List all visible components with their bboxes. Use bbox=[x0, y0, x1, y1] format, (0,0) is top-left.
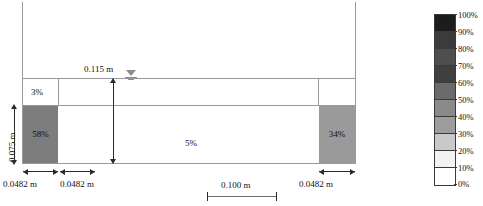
scale-bar-label: 0.100 m bbox=[221, 181, 251, 190]
figure-canvas: 58% 34% 3% 5% 0.115 m 0.075 m 0.0482 m 0… bbox=[0, 0, 483, 206]
scale-bar-tick-left bbox=[207, 192, 208, 201]
colorbar-band bbox=[435, 15, 455, 32]
water-depth-arrow-top bbox=[110, 78, 116, 83]
right-block-inner-edge-line bbox=[318, 78, 319, 106]
center-zone-label: 5% bbox=[185, 139, 197, 148]
water-level-triangle-icon bbox=[126, 70, 138, 81]
colorbar-band bbox=[435, 66, 455, 83]
colorbar-tick-mark bbox=[454, 65, 457, 66]
colorbar-tick-label-10: 10% bbox=[458, 164, 474, 173]
colorbar-band bbox=[435, 83, 455, 100]
colorbar-tick-mark bbox=[454, 48, 457, 49]
colorbar-tick-label-50: 50% bbox=[458, 96, 474, 105]
left-block-inner-edge-line bbox=[58, 78, 59, 106]
left-gap-width-arrow-left bbox=[60, 169, 65, 175]
colorbar-tick-mark bbox=[454, 14, 457, 15]
colorbar-band bbox=[435, 32, 455, 49]
colorbar-band bbox=[435, 49, 455, 66]
block-height-arrow-top bbox=[11, 104, 17, 109]
colorbar-band bbox=[435, 168, 455, 185]
colorbar-band bbox=[435, 100, 455, 117]
colorbar-band bbox=[435, 151, 455, 168]
block-height-label: 0.075 m bbox=[8, 132, 17, 162]
colorbar-tick-mark bbox=[454, 150, 457, 151]
colorbar bbox=[434, 14, 456, 186]
water-depth-label: 0.115 m bbox=[84, 65, 113, 74]
colorbar-tick-mark bbox=[454, 31, 457, 32]
water-surface-line bbox=[22, 78, 356, 79]
water-depth-dim-line bbox=[113, 79, 114, 163]
right-block-width-label: 0.0482 m bbox=[299, 180, 333, 189]
colorbar-tick-mark bbox=[454, 116, 457, 117]
right-wall-line bbox=[355, 2, 356, 163]
block-top-level-line bbox=[22, 105, 356, 106]
left-block: 58% bbox=[23, 106, 58, 163]
block-height-arrow-bottom bbox=[11, 160, 17, 165]
right-block-label: 34% bbox=[329, 130, 346, 139]
left-block-width-arrow-left bbox=[23, 169, 28, 175]
colorbar-band bbox=[435, 134, 455, 151]
colorbar-tick-label-80: 80% bbox=[458, 45, 474, 54]
colorbar-tick-label-100: 100% bbox=[458, 11, 478, 20]
colorbar-tick-mark bbox=[454, 184, 457, 185]
colorbar-tick-label-40: 40% bbox=[458, 113, 474, 122]
upper-left-zone-label: 3% bbox=[31, 88, 43, 97]
channel-bed-line bbox=[22, 163, 356, 164]
colorbar-tick-label-0: 0% bbox=[458, 180, 469, 189]
colorbar-tick-mark bbox=[454, 133, 457, 134]
scale-bar-tick-right bbox=[276, 192, 277, 201]
colorbar-tick-label-60: 60% bbox=[458, 79, 474, 88]
right-block: 34% bbox=[319, 106, 355, 163]
left-gap-width-label: 0.0482 m bbox=[60, 180, 94, 189]
scale-bar-line bbox=[207, 196, 277, 197]
left-block-width-arrow-right bbox=[53, 169, 58, 175]
colorbar-tick-mark bbox=[454, 82, 457, 83]
colorbar-tick-label-20: 20% bbox=[458, 147, 474, 156]
water-depth-arrow-bottom bbox=[110, 159, 116, 164]
colorbar-tick-label-90: 90% bbox=[458, 28, 474, 37]
colorbar-band bbox=[435, 117, 455, 134]
block-height-dim-line bbox=[14, 106, 15, 163]
colorbar-tick-label-70: 70% bbox=[458, 62, 474, 71]
left-block-width-label: 0.0482 m bbox=[3, 180, 37, 189]
left-gap-width-arrow-right bbox=[90, 169, 95, 175]
colorbar-tick-label-30: 30% bbox=[458, 130, 474, 139]
colorbar-tick-mark bbox=[454, 99, 457, 100]
left-block-label: 58% bbox=[32, 130, 49, 139]
colorbar-tick-mark bbox=[454, 167, 457, 168]
right-block-width-arrow-left bbox=[319, 169, 324, 175]
right-block-width-arrow-right bbox=[350, 169, 355, 175]
